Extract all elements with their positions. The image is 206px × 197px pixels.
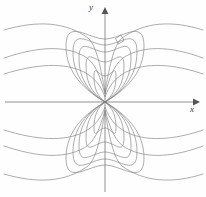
y-axis-arrowhead bbox=[102, 7, 109, 14]
open-curve-lower-1 bbox=[4, 110, 203, 155]
open-curve-upper-2 bbox=[4, 65, 203, 97]
open-curve-upper-1 bbox=[4, 49, 203, 94]
x-axis-label: x bbox=[190, 105, 194, 114]
x-axis-arrowhead bbox=[193, 99, 200, 106]
open-curve-family-upper bbox=[4, 24, 203, 97]
axes-group bbox=[5, 14, 193, 192]
figure-container: y x bbox=[0, 0, 206, 197]
orthogonal-curves-plot bbox=[0, 0, 206, 197]
open-curve-upper-3 bbox=[4, 24, 203, 92]
open-curve-lower-3 bbox=[4, 112, 203, 180]
open-curve-family-lower bbox=[4, 107, 203, 180]
y-axis-label: y bbox=[89, 3, 93, 12]
open-curve-lower-2 bbox=[4, 107, 203, 139]
